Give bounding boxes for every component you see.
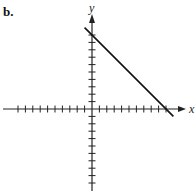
y-axis-label: y [88, 1, 95, 15]
x-axis-label: x [188, 102, 195, 116]
coordinate-plane: x y [0, 0, 195, 191]
data-line [85, 28, 174, 117]
y-axis-arrow-icon [89, 14, 95, 23]
x-axis-arrow-icon [178, 106, 186, 112]
